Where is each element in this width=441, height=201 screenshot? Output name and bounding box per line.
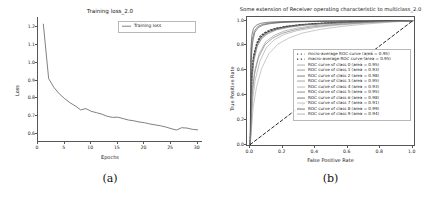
axis-tick-mark: [35, 115, 37, 116]
y-tick-label: 1.0: [231, 17, 244, 22]
x-tick-label: 20: [141, 145, 147, 150]
legend-label: ROC curve of class 6 (area = 0.98): [308, 96, 379, 100]
panel-a-x-axis-label: Epochs: [0, 154, 220, 160]
y-tick-label: 1.2: [22, 23, 35, 28]
legend-label: ROC curve of class 3 (area = 0.95): [308, 79, 379, 83]
legend-line-swatch: [297, 63, 305, 67]
legend-line-swatch: [297, 52, 305, 56]
x-tick-label: 5: [62, 145, 65, 150]
legend-item[interactable]: ROC curve of class 9 (area = 0.94): [297, 112, 407, 116]
legend-label: ROC curve of class 9 (area = 0.94): [308, 112, 379, 116]
y-tick-label: 0.8: [231, 42, 244, 47]
axis-tick-mark: [244, 44, 246, 45]
y-tick-label: 0.0: [231, 141, 244, 146]
axis-tick-mark: [244, 119, 246, 120]
panel-a-caption: (a): [0, 172, 220, 185]
y-tick-label: 1.1: [22, 41, 35, 46]
panel-b-caption: (b): [220, 172, 441, 185]
axis-tick-mark: [249, 146, 250, 148]
panel-a-y-axis-label: Loss: [14, 85, 20, 96]
legend-item[interactable]: ROC curve of class 4 (area = 0.93): [297, 85, 407, 89]
legend-line-swatch: [297, 112, 305, 116]
x-tick-label: 0.8: [376, 149, 383, 154]
axis-tick-mark: [143, 142, 144, 144]
axis-tick-mark: [347, 146, 348, 148]
legend-line-swatch: [297, 107, 305, 111]
x-tick-label: 0.6: [343, 149, 350, 154]
x-tick-label: 15: [114, 145, 120, 150]
x-tick-label: 0.0: [246, 149, 253, 154]
panel-a-legend[interactable]: Training loss: [118, 21, 196, 33]
y-tick-label: 0.2: [231, 116, 244, 121]
legend-item[interactable]: ROC curve of class 8 (area = 0.99): [297, 107, 407, 111]
legend-line-swatch: [122, 24, 131, 28]
panel-a-plot-area: [38, 17, 203, 142]
axis-tick-mark: [244, 20, 246, 21]
legend-item[interactable]: ROC curve of class 7 (area = 0.91): [297, 101, 407, 105]
axis-tick-mark: [412, 146, 413, 148]
legend-line-swatch: [297, 90, 305, 94]
panel-b-title: Some extension of Receiver operating cha…: [220, 6, 441, 12]
axis-tick-mark: [35, 97, 37, 98]
legend-item[interactable]: Training loss: [122, 24, 192, 28]
figure-panel-row: Training loss_2.0 051015202530 0.60.70.8…: [0, 0, 441, 201]
axis-tick-mark: [379, 146, 380, 148]
panel-b-y-axis-label: True Positive Rate: [229, 66, 235, 111]
legend-item[interactable]: ROC curve of class 3 (area = 0.95): [297, 79, 407, 83]
legend-label: macro-average ROC curve (area = 0.95): [308, 57, 391, 61]
y-tick-label: 0.6: [22, 131, 35, 136]
panel-a-training-loss: Training loss_2.0 051015202530 0.60.70.8…: [0, 0, 220, 201]
axis-tick-mark: [35, 26, 37, 27]
legend-line-swatch: [297, 79, 305, 83]
legend-item[interactable]: ROC curve of class 1 (area = 0.93): [297, 68, 407, 72]
legend-label: ROC curve of class 1 (area = 0.93): [308, 68, 379, 72]
axis-tick-mark: [35, 44, 37, 45]
panel-b-roc-multiclass: Some extension of Receiver operating cha…: [220, 0, 441, 201]
legend-label: ROC curve of class 5 (area = 0.95): [308, 90, 379, 94]
axis-tick-mark: [244, 144, 246, 145]
y-tick-label: 0.8: [22, 95, 35, 100]
axis-tick-mark: [37, 142, 38, 144]
panel-b-x-axis-label: False Positive Rate: [220, 157, 441, 163]
legend-label: ROC curve of class 4 (area = 0.93): [308, 85, 379, 89]
axis-tick-mark: [90, 142, 91, 144]
axis-tick-mark: [282, 146, 283, 148]
legend-item[interactable]: micro-average ROC curve (area = 0.95): [297, 52, 407, 56]
axis-tick-mark: [35, 133, 37, 134]
x-tick-label: 0: [36, 145, 39, 150]
panel-b-legend[interactable]: micro-average ROC curve (area = 0.95)mac…: [293, 49, 411, 121]
legend-line-swatch: [297, 68, 305, 72]
x-tick-label: 1.0: [408, 149, 415, 154]
legend-item[interactable]: ROC curve of class 0 (area = 0.95): [297, 63, 407, 67]
axis-tick-mark: [170, 142, 171, 144]
y-tick-label: 1.0: [22, 59, 35, 64]
y-tick-label: 0.7: [22, 113, 35, 118]
panel-a-title: Training loss_2.0: [0, 8, 220, 14]
axis-tick-mark: [314, 146, 315, 148]
x-tick-label: 10: [87, 145, 93, 150]
legend-label: ROC curve of class 0 (area = 0.95): [308, 63, 379, 67]
legend-item[interactable]: ROC curve of class 2 (area = 0.98): [297, 74, 407, 78]
legend-label: Training loss: [134, 24, 161, 28]
x-tick-label: 30: [194, 145, 200, 150]
axis-tick-mark: [64, 142, 65, 144]
legend-item[interactable]: macro-average ROC curve (area = 0.95): [297, 57, 407, 61]
panel-a-axes: [37, 17, 202, 142]
legend-label: ROC curve of class 8 (area = 0.99): [308, 107, 379, 111]
legend-label: micro-average ROC curve (area = 0.95): [308, 52, 390, 56]
axis-tick-mark: [35, 62, 37, 63]
axis-tick-mark: [244, 94, 246, 95]
legend-line-swatch: [297, 74, 305, 78]
legend-line-swatch: [297, 57, 305, 61]
x-tick-label: 0.4: [311, 149, 318, 154]
legend-item[interactable]: ROC curve of class 6 (area = 0.98): [297, 96, 407, 100]
legend-item[interactable]: ROC curve of class 5 (area = 0.95): [297, 90, 407, 94]
x-tick-label: 25: [167, 145, 173, 150]
legend-line-swatch: [297, 85, 305, 89]
axis-tick-mark: [35, 80, 37, 81]
legend-label: ROC curve of class 2 (area = 0.98): [308, 74, 379, 78]
legend-line-swatch: [297, 96, 305, 100]
legend-label: ROC curve of class 7 (area = 0.91): [308, 101, 379, 105]
y-tick-label: 0.9: [22, 77, 35, 82]
x-tick-label: 0.2: [278, 149, 285, 154]
